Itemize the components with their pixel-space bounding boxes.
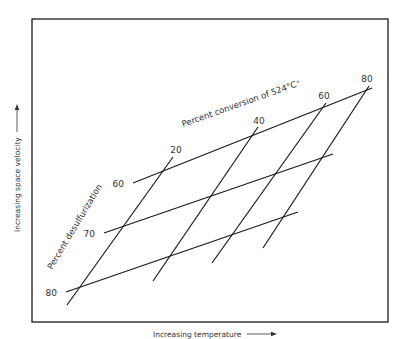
y-axis-label: Increasing space velocity xyxy=(13,137,22,232)
conversion-line-40 xyxy=(153,127,258,281)
desulfurization-label-70: 70 xyxy=(84,229,96,239)
x-axis-arrow-icon xyxy=(271,332,277,337)
desulfurization-line-80 xyxy=(66,212,298,292)
nomograph-diagram: 20406080 607080 Percent conversion of 52… xyxy=(0,0,398,339)
conversion-label-80: 80 xyxy=(361,74,373,84)
x-axis-label-group: Increasing temperature xyxy=(153,330,277,339)
desulfurization-title: Percent desulfurization xyxy=(45,182,104,271)
x-axis-label: Increasing temperature xyxy=(153,330,242,339)
desulfurization-label-80: 80 xyxy=(46,288,58,298)
y-axis-label-group: Increasing space velocity xyxy=(13,104,22,232)
y-axis-arrow-icon xyxy=(15,104,20,110)
conversion-title: Percent conversion of 524°C⁺ xyxy=(180,78,302,129)
conversion-label-40: 40 xyxy=(253,116,265,126)
plot-frame xyxy=(32,19,388,322)
desulfurization-label-60: 60 xyxy=(113,179,125,189)
conversion-label-60: 60 xyxy=(318,91,330,101)
conversion-label-20: 20 xyxy=(170,145,182,155)
